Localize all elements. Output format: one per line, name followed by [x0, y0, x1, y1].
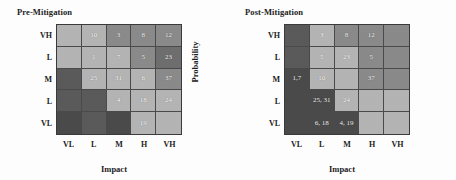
heatmap-cell-label: 25, 31 [313, 97, 331, 104]
heatmap-grid-wrap: 1038121752325316374182419 [56, 24, 182, 135]
heatmap-cell: 1,7 [285, 69, 310, 91]
x-tick: VH [385, 137, 410, 151]
y-tick: L [30, 46, 54, 68]
heatmap-cell: 19 [131, 112, 156, 134]
heatmap-cell: 5 [131, 47, 156, 69]
heatmap-cell-label: 7 [117, 54, 121, 61]
heatmap-cell [285, 90, 310, 112]
y-tick: L [30, 91, 54, 113]
heatmap-cell: 3 [310, 25, 335, 47]
x-axis-tick-labels: VL L M H VH [284, 137, 410, 151]
heatmap-cell: 4, 19 [335, 112, 360, 134]
heatmap-cell: 8 [335, 25, 360, 47]
heatmap-cell-label: 10 [318, 75, 325, 82]
heatmap-cell-label: 10 [90, 32, 97, 39]
heatmap-cell: 6 [131, 69, 156, 91]
heatmap-cell-label: 18 [140, 97, 147, 104]
heatmap-cell-label: 5 [320, 54, 324, 61]
heatmap-cell-label: 8 [142, 32, 146, 39]
heatmap-cell-label: 25 [90, 75, 97, 82]
heatmap-cell-label: 12 [368, 32, 375, 39]
y-axis-tick-labels: VH L M L VL [30, 24, 54, 135]
x-tick: H [132, 137, 157, 151]
heatmap-cell-label: 6, 18 [315, 120, 329, 127]
heatmap-cell-label: 24 [343, 97, 350, 104]
heatmap-cell-label: 23 [165, 54, 172, 61]
y-tick: M [258, 68, 282, 90]
heatmap-cell [57, 25, 82, 47]
heatmap-cell [57, 112, 82, 134]
x-tick: H [360, 137, 385, 151]
heatmap-cell: 31 [107, 69, 132, 91]
heatmap-cell: 5 [359, 47, 384, 69]
heatmap-cell: 1 [82, 47, 107, 69]
x-axis-tick-labels: VL L M H VH [56, 137, 182, 151]
heatmap-cell-label: 8 [345, 32, 349, 39]
heatmap-cell: 24 [335, 90, 360, 112]
heatmap-cell [335, 69, 360, 91]
heatmap-cell: 25 [82, 69, 107, 91]
y-tick: VH [30, 24, 54, 46]
heatmap-cell [384, 47, 409, 69]
heatmap-cell: 10 [82, 25, 107, 47]
heatmap-cell-label: 5 [370, 54, 374, 61]
heatmap-cell-label: 19 [140, 120, 147, 127]
heatmap-cell: 10 [310, 69, 335, 91]
heatmap-cell-label: 37 [368, 75, 375, 82]
heatmap-cell-label: 31 [115, 75, 122, 82]
heatmap-cell: 23 [335, 47, 360, 69]
heatmap-cell: 37 [156, 69, 181, 91]
heatmap-cell-label: 4, 19 [339, 120, 353, 127]
heatmap-cell [384, 69, 409, 91]
heatmap-cell: 37 [359, 69, 384, 91]
x-axis-label: Impact [0, 164, 228, 174]
heatmap-cell [57, 69, 82, 91]
panel-title: Pre-Mitigation [17, 7, 72, 17]
heatmap-cell [359, 90, 384, 112]
y-tick: M [30, 68, 54, 90]
y-tick: VL [30, 113, 54, 135]
x-axis-label: Impact [228, 164, 456, 174]
y-axis-label: Probability [190, 32, 202, 92]
x-tick: L [309, 137, 334, 151]
x-tick: M [334, 137, 359, 151]
heatmap-cell [82, 90, 107, 112]
heatmap-cell: 23 [156, 47, 181, 69]
heatmap-cell [82, 112, 107, 134]
heatmap-cell-label: 4 [117, 97, 121, 104]
heatmap-cell [57, 90, 82, 112]
y-axis-tick-labels: VH L M L VL [258, 24, 282, 135]
heatmap-grid: 1038121752325316374182419 [56, 24, 182, 135]
heatmap-cell: 8 [131, 25, 156, 47]
heatmap-cell [384, 112, 409, 134]
heatmap-cell [285, 25, 310, 47]
x-tick: M [106, 137, 131, 151]
heatmap-cell-label: 23 [343, 54, 350, 61]
y-tick: L [258, 46, 282, 68]
heatmap-cell-label: 24 [165, 97, 172, 104]
heatmap-cell [384, 90, 409, 112]
y-tick: VL [258, 113, 282, 135]
heatmap-cell [285, 47, 310, 69]
heatmap-cell-label: 3 [320, 32, 324, 39]
x-tick: VL [284, 137, 309, 151]
heatmap-cell: 4 [107, 90, 132, 112]
heatmap-cell-label: 37 [165, 75, 172, 82]
heatmap-cell: 5 [310, 47, 335, 69]
y-tick: L [258, 91, 282, 113]
heatmap-cell [359, 112, 384, 134]
heatmap-cell [285, 112, 310, 134]
heatmap-cell [384, 25, 409, 47]
heatmap-cell: 12 [359, 25, 384, 47]
heatmap-cell [156, 112, 181, 134]
x-tick: VH [157, 137, 182, 151]
panel-title: Post-Mitigation [245, 7, 303, 17]
x-tick: L [81, 137, 106, 151]
heatmap-cell-label: 1 [92, 54, 96, 61]
heatmap-cell: 24 [156, 90, 181, 112]
risk-matrix-figure: Pre-Mitigation Probability VH L M L VL 1… [0, 0, 456, 180]
heatmap-cell: 12 [156, 25, 181, 47]
heatmap-grid-wrap: 381252351,7103725, 31246, 184, 19 [284, 24, 410, 135]
y-tick: VH [258, 24, 282, 46]
heatmap-cell-label: 6 [142, 75, 146, 82]
